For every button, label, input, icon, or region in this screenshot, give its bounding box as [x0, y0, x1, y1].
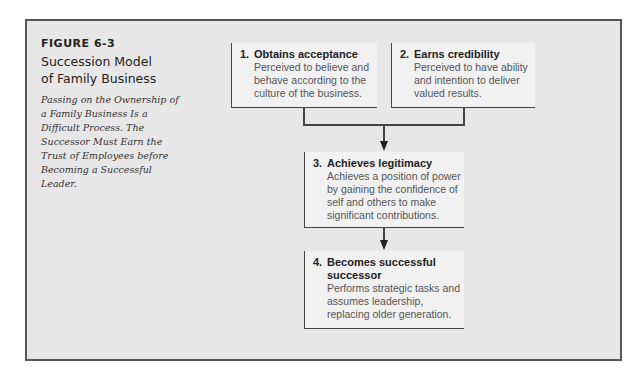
connector-left	[303, 108, 305, 125]
step-description: Achieves a position of power by gaining …	[313, 170, 464, 222]
figure-caption: FIGURE 6-3 Succession Model of Family Bu…	[41, 37, 181, 191]
step-box-4: 4.Becomes successful successor Performs …	[304, 251, 464, 329]
step-title: Obtains acceptance	[254, 48, 358, 61]
step-description: Perceived to have ability and intention …	[400, 61, 535, 100]
figure-number: FIGURE 6-3	[41, 37, 181, 50]
step-title: Earns credibility	[414, 48, 500, 61]
connector-right	[463, 108, 465, 125]
figure-description: Passing on the Ownership of a Family Bus…	[41, 93, 181, 191]
arrow-down-icon	[380, 141, 388, 151]
arrow-1-shaft	[383, 124, 385, 142]
step-description: Performs strategic tasks and assumes lea…	[313, 282, 464, 321]
step-box-2: 2.Earns credibility Perceived to have ab…	[391, 43, 535, 108]
arrow-down-icon	[380, 240, 388, 250]
step-description: Perceived to believe and behave accordin…	[240, 61, 377, 100]
step-title: Achieves legitimacy	[327, 157, 432, 170]
step-title: Becomes successful successor	[327, 256, 437, 282]
step-box-1: 1.Obtains acceptance Perceived to believ…	[231, 43, 377, 108]
step-box-3: 3.Achieves legitimacy Achieves a positio…	[304, 152, 464, 228]
figure-title: Succession Model of Family Business	[41, 53, 181, 87]
